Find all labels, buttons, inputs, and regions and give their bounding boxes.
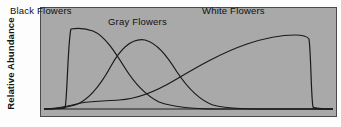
series-label-black-flowers: Black Flowers	[10, 5, 72, 16]
chart-figure: Relative Abundance Black Flowers Gray Fl…	[0, 0, 341, 127]
series-label-gray-flowers: Gray Flowers	[108, 16, 167, 27]
curve-black-flowers	[44, 28, 333, 109]
y-axis-label-text: Relative Abundance	[5, 17, 16, 109]
curves-svg	[41, 8, 336, 116]
plot-panel	[40, 7, 337, 117]
curve-gray-flowers	[44, 40, 333, 109]
series-label-white-flowers: White Flowers	[202, 5, 265, 16]
y-axis-label: Relative Abundance	[0, 0, 20, 127]
